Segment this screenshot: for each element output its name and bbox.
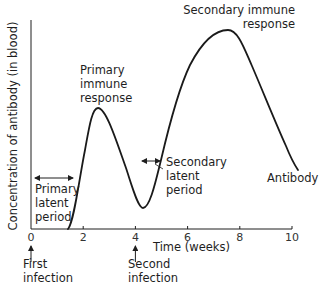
antibody-curve [68, 30, 298, 229]
y-axis-label: Concentration of antibody (in blood) [6, 22, 20, 231]
x-tick-2: 2 [80, 231, 87, 244]
x-tick-0: 0 [28, 231, 35, 244]
x-axis-label: Time (weeks) [153, 240, 230, 254]
x-tick-10: 10 [285, 231, 299, 244]
second-infection-label: Second infection [128, 257, 178, 285]
x-tick-8: 8 [236, 231, 243, 244]
first-infection-label: First infection [23, 257, 73, 285]
x-tick-4: 4 [132, 231, 139, 244]
secondary-response-label: Secondary immune response [167, 3, 295, 31]
antibody-series-label: Antibody [267, 171, 318, 185]
antibody-response-chart: Concentration of antibody (in blood) 0 2… [0, 0, 326, 289]
primary-latent-label: Primary latent period [35, 182, 79, 224]
primary-response-label: Primary immune response [80, 63, 132, 105]
secondary-latent-label: Secondary latent period [166, 155, 227, 197]
